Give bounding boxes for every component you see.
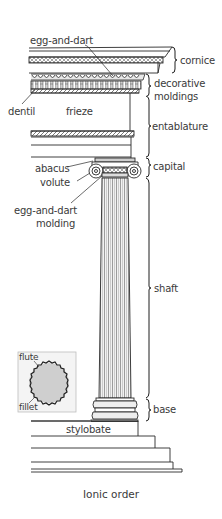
shaft	[99, 178, 131, 398]
base	[91, 398, 138, 422]
label-base: base	[153, 404, 176, 415]
label-cornice: cornice	[180, 55, 215, 66]
label-egg-and-dart: egg-and-dart	[30, 35, 93, 46]
entablature-brace	[146, 96, 151, 157]
label-decorative-moldings-line1: decorative	[154, 78, 205, 89]
cornice-brace	[172, 47, 177, 73]
label-volute: volute	[40, 177, 70, 188]
inset-label-flute: flute	[19, 352, 38, 363]
label-entablature: entablature	[152, 121, 208, 132]
cornice	[29, 47, 172, 73]
diagram-caption: Ionic order	[0, 488, 222, 500]
shaft-brace	[146, 178, 151, 398]
base-brace	[146, 399, 151, 421]
label-egg-and-dart-molding-line1: egg-and-dart	[14, 205, 77, 216]
label-stylobate: stylobate	[66, 424, 111, 435]
label-frieze: frieze	[66, 106, 93, 117]
decorative-moldings	[31, 74, 145, 93]
braces	[146, 47, 177, 421]
capital	[89, 158, 141, 178]
label-shaft: shaft	[154, 283, 178, 294]
label-dentil: dentil	[8, 106, 35, 117]
label-abacus: abacus	[35, 163, 69, 174]
decorative-moldings-brace	[146, 74, 151, 96]
label-egg-and-dart-molding-line2: molding	[36, 218, 75, 229]
capital-brace	[146, 158, 151, 177]
frieze	[31, 93, 134, 158]
label-capital: capital	[153, 161, 185, 172]
inset-label-fillet: fillet	[19, 402, 38, 413]
label-decorative-moldings-line2: moldings	[154, 91, 198, 102]
